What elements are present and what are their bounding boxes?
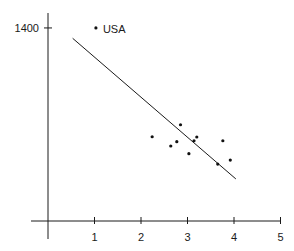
data-point — [229, 158, 232, 161]
scatter-chart: 123451400 USA — [0, 0, 294, 251]
x-tick-label: 2 — [138, 231, 144, 243]
x-tick-label: 4 — [231, 231, 237, 243]
data-point — [221, 139, 224, 142]
point-annotation: USA — [103, 23, 126, 35]
data-points — [94, 26, 232, 165]
x-tick-label: 3 — [184, 231, 190, 243]
data-point — [195, 135, 198, 138]
regression-line — [73, 38, 236, 179]
x-tick-label: 1 — [91, 231, 97, 243]
data-point — [192, 139, 195, 142]
axes: 123451400 — [15, 13, 284, 243]
trend-line — [73, 38, 236, 179]
labels: USA — [103, 23, 126, 35]
data-point — [187, 152, 190, 155]
data-point — [94, 26, 97, 29]
data-point — [216, 162, 219, 165]
data-point — [151, 135, 154, 138]
data-point — [179, 123, 182, 126]
data-point — [175, 140, 178, 143]
y-tick-label: 1400 — [15, 22, 39, 34]
x-tick-label: 5 — [277, 231, 283, 243]
data-point — [169, 144, 172, 147]
